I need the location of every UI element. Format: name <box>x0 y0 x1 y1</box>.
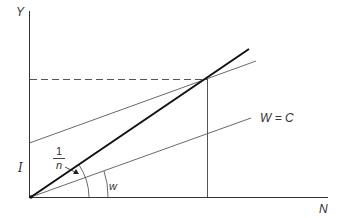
wage-angle-label: w <box>109 181 117 192</box>
productivity-line <box>31 49 249 197</box>
slope-numerator: 1 <box>56 145 62 157</box>
x-axis-label: N <box>319 203 328 215</box>
diagram-canvas <box>0 0 346 218</box>
y-axis-label: Y <box>16 6 24 18</box>
slope-fraction-label: 1 n <box>53 146 65 171</box>
origin-point <box>29 195 33 199</box>
wage-angle-arc <box>104 171 108 197</box>
intercept-line <box>30 61 257 143</box>
slope-angle-arc <box>79 165 89 197</box>
wage-line-label: W = C <box>260 112 294 124</box>
slope-denominator: n <box>56 159 62 171</box>
intercept-label: I <box>18 162 23 174</box>
